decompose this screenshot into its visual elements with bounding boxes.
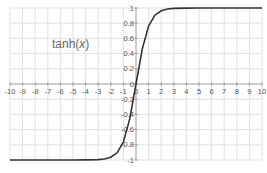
x-tick-label: -3 bbox=[95, 87, 102, 96]
x-tick-label: -5 bbox=[70, 87, 77, 96]
x-tick-label: 7 bbox=[222, 87, 226, 96]
title-close: ) bbox=[85, 37, 89, 51]
y-tick-label: 1 bbox=[130, 4, 134, 13]
x-tick-label: 8 bbox=[235, 87, 239, 96]
x-tick-label: -2 bbox=[107, 87, 114, 96]
y-tick-label: 0 bbox=[130, 80, 134, 89]
x-tick-label: -10 bbox=[5, 87, 16, 96]
x-tick-label: -7 bbox=[44, 87, 51, 96]
x-tick-label: 5 bbox=[197, 87, 201, 96]
x-tick-label: 6 bbox=[210, 87, 214, 96]
tanh-chart: -10-9-8-7-6-5-4-3-2-1012345678910 10.80.… bbox=[0, 0, 267, 173]
y-tick-label: 0.8 bbox=[124, 19, 134, 28]
x-tick-label: 3 bbox=[172, 87, 176, 96]
y-tick-label: -0.4 bbox=[121, 110, 134, 119]
x-tick-label: -9 bbox=[19, 87, 26, 96]
title-fn: tanh( bbox=[52, 37, 79, 51]
x-tick-label: -8 bbox=[32, 87, 39, 96]
x-tick-label: 9 bbox=[247, 87, 251, 96]
y-tick-label: 0.2 bbox=[124, 64, 134, 73]
y-tick-label: 0.6 bbox=[124, 34, 134, 43]
x-tick-label: 1 bbox=[147, 87, 151, 96]
y-tick-label: -1 bbox=[127, 156, 134, 165]
y-tick-label: 0.4 bbox=[124, 49, 134, 58]
x-tick-label: 2 bbox=[159, 87, 163, 96]
chart-title: tanh(x) bbox=[52, 37, 89, 51]
x-tick-label: -6 bbox=[57, 87, 64, 96]
x-tick-label: -4 bbox=[82, 87, 89, 96]
x-tick-label: 10 bbox=[258, 87, 266, 96]
x-tick-label: 4 bbox=[184, 87, 188, 96]
